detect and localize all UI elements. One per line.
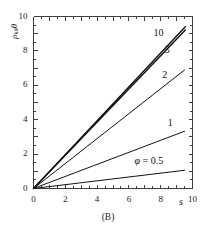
x-tick-label-6: 6 (121, 194, 137, 204)
y-axis-title-base: ρ (9, 34, 19, 38)
y-axis-title-tail: θ (9, 24, 19, 28)
curve-label-phi-5: 5 (165, 44, 170, 55)
curve-phi-2 (34, 70, 185, 189)
y-axis-title-subscript: kθ (12, 28, 19, 34)
y-tick-label-4: 4 (12, 114, 28, 124)
phi-value: = 0.5 (140, 155, 163, 166)
curve-label-phi-10: 10 (154, 27, 164, 38)
y-axis-title: ρkθθ (9, 11, 20, 51)
y-tick-label-2: 2 (12, 148, 28, 158)
x-tick-label-10: 10 (185, 194, 201, 204)
curve-label-phi-2: 2 (162, 69, 167, 80)
curve-label-phi-1: 1 (168, 117, 173, 128)
y-tick-label-0: 0 (12, 183, 28, 193)
x-tick-label-8: 8 (153, 194, 169, 204)
x-tick-label-4: 4 (89, 194, 105, 204)
x-tick-label-0: 0 (26, 194, 42, 204)
y-tick-label-6: 6 (12, 79, 28, 89)
x-axis-title: s (179, 196, 183, 207)
x-tick-label-2: 2 (57, 194, 73, 204)
figure-caption: (B) (0, 212, 216, 222)
curve-label-phi-0.5: φ = 0.5 (134, 155, 163, 166)
figure-panel-b: 0246810 0246810 10521φ = 0.5 ρkθθ s (B) (0, 0, 216, 235)
